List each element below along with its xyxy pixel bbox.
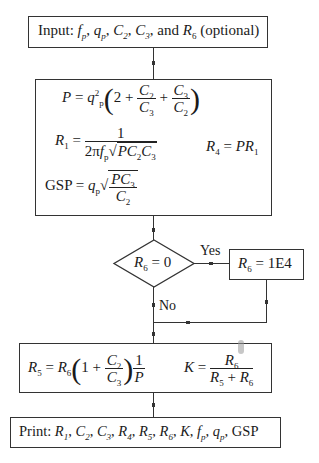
equation-R1: R1 = 12πfp√PC2C3 xyxy=(55,125,157,159)
equation-R5: R5 = R6(1 + C2C3)1P xyxy=(28,352,145,385)
equation-P: P = q2p(2 + C2C3 + C3C2) xyxy=(62,82,200,115)
arrow-marker xyxy=(152,403,155,407)
no-label: No xyxy=(159,298,176,314)
print-text: Print: R1, C2, C3, R4, R5, R6, K, fp, qp… xyxy=(19,423,258,440)
connector-merge xyxy=(153,322,267,323)
scan-smudge xyxy=(238,340,244,354)
equation-K: K = R6R5 + R6 xyxy=(184,352,253,385)
input-text: Input: fp, qp, C2, C3, and R6 (optional) xyxy=(38,22,259,39)
equation-R4: R4 = PR1 xyxy=(206,138,258,155)
arrow-marker xyxy=(186,321,190,324)
arrow-marker xyxy=(209,262,213,265)
yes-label: Yes xyxy=(200,243,220,259)
arrow-marker xyxy=(265,300,268,304)
equation-GSP: GSP = qp√PC3C2 xyxy=(45,170,138,204)
arrow-marker xyxy=(152,332,155,336)
assign-label: R6 = 1E4 xyxy=(238,255,292,272)
arrow-marker xyxy=(152,228,155,232)
arrow-marker xyxy=(152,61,155,65)
decision-label: R6 = 0 xyxy=(134,254,171,271)
arrow-marker xyxy=(152,303,155,307)
